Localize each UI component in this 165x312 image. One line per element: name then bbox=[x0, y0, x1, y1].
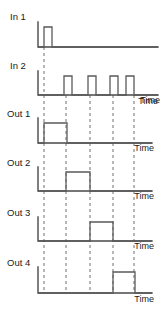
signal-row-out-4: Out 4Time bbox=[7, 257, 154, 304]
axis-out-1 bbox=[38, 118, 152, 143]
guide-lines-layer bbox=[44, 47, 134, 293]
axis-in-2 bbox=[38, 71, 158, 95]
time-axis-label-in-2-upper: Time bbox=[138, 96, 158, 106]
time-axis-label-out-4: Time bbox=[134, 294, 154, 304]
row-label-in-1: In 1 bbox=[10, 11, 26, 22]
timing-diagram: In 1In 2TimeOut 1TimeOut 2TimeOut 3TimeO… bbox=[0, 0, 165, 312]
axis-out-3 bbox=[38, 217, 152, 241]
trace-out-1 bbox=[38, 123, 152, 143]
signal-rows-layer: In 1In 2TimeOut 1TimeOut 2TimeOut 3TimeO… bbox=[7, 11, 160, 304]
signal-row-out-2: Out 2Time bbox=[7, 157, 154, 201]
trace-in-1 bbox=[38, 27, 158, 47]
signal-row-out-1: Out 1Time bbox=[7, 108, 154, 153]
waveform-canvas: In 1In 2TimeOut 1TimeOut 2TimeOut 3TimeO… bbox=[0, 0, 165, 312]
time-axis-label-out-1: Time bbox=[134, 143, 154, 153]
trace-out-3 bbox=[38, 222, 152, 241]
trace-out-2 bbox=[38, 172, 152, 191]
signal-row-in-1: In 1 bbox=[10, 11, 158, 47]
signal-row-out-3: Out 3Time bbox=[7, 207, 154, 251]
axis-out-2 bbox=[38, 167, 152, 191]
time-axis-label-out-3: Time bbox=[134, 241, 154, 251]
row-label-out-2: Out 2 bbox=[7, 157, 30, 168]
row-label-in-2: In 2 bbox=[10, 60, 26, 71]
axis-in-1 bbox=[38, 22, 158, 47]
row-label-out-1: Out 1 bbox=[7, 108, 30, 119]
trace-in-2 bbox=[38, 76, 158, 95]
trace-out-4 bbox=[38, 272, 152, 293]
row-label-out-3: Out 3 bbox=[7, 207, 30, 218]
time-axis-label-out-2: Time bbox=[134, 191, 154, 201]
row-label-out-4: Out 4 bbox=[7, 257, 30, 268]
